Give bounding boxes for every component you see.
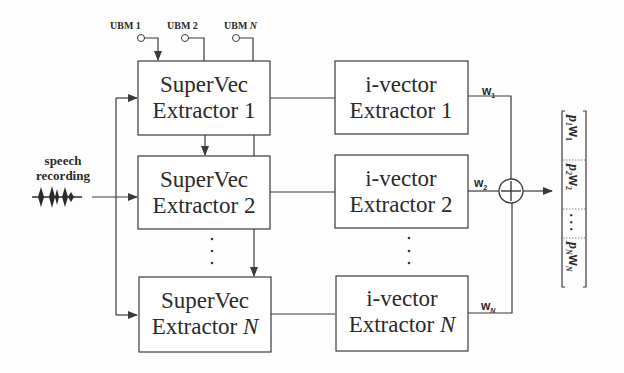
svg-text:w2: w2 <box>473 176 487 191</box>
ubm-2-port-icon <box>182 35 189 42</box>
svg-text:SuperVec: SuperVec <box>160 72 248 97</box>
ubm-1-input: UBM 1 <box>110 20 158 60</box>
supervec-extractor-1: SuperVec Extractor 1 <box>138 61 270 135</box>
supervec-extractor-2: SuperVec Extractor 2 <box>138 156 270 229</box>
svg-text:wN: wN <box>480 299 496 314</box>
vector-entry-1: p1w1 <box>564 114 582 141</box>
vector-entry-ellipsis: . . . <box>567 214 582 232</box>
ubm-2-input: UBM 2 <box>167 20 204 61</box>
svg-text:pNwN: pNwN <box>564 241 582 273</box>
sum-node-icon <box>499 179 523 203</box>
ivector-extractor-1: i-vector Extractor 1 <box>335 61 468 134</box>
svg-text:w1: w1 <box>481 84 495 99</box>
ivector-extractor-2: i-vector Extractor 2 <box>335 155 468 228</box>
ivector-ellipsis <box>408 237 411 265</box>
svg-text:i-vector: i-vector <box>365 72 437 97</box>
svg-text:p1w1: p1w1 <box>564 114 582 141</box>
svg-text:Extractor 1: Extractor 1 <box>153 98 256 123</box>
speech-label-line2: recording <box>36 168 90 183</box>
vector-entry-2: p2w2 <box>564 163 582 190</box>
output-w2: w2 <box>468 176 499 191</box>
ivector-fusion-diagram: UBM 1 UBM 2 UBM N speech recording Super… <box>0 0 624 373</box>
ubm-n-label: UBM N <box>224 20 258 31</box>
ubm-n-port-icon <box>233 35 240 42</box>
waveform-icon <box>32 186 82 208</box>
ubm-1-port-icon <box>138 35 145 42</box>
svg-text:Extractor 2: Extractor 2 <box>350 192 453 217</box>
svg-text:Extractor 1: Extractor 1 <box>350 98 453 123</box>
ubm-2-label: UBM 2 <box>167 20 198 31</box>
supervec-extractor-n: SuperVec Extractor N <box>139 277 271 352</box>
svg-text:i-vector: i-vector <box>365 166 437 191</box>
svg-text:SuperVec: SuperVec <box>160 167 248 192</box>
svg-text:Extractor N: Extractor N <box>152 314 260 339</box>
speech-label-line1: speech <box>45 153 83 168</box>
svg-text:Extractor 2: Extractor 2 <box>153 193 256 218</box>
ubm-n-input: UBM N <box>224 20 258 61</box>
svg-text:SuperVec: SuperVec <box>161 288 249 313</box>
svg-text:p2w2: p2w2 <box>564 163 582 190</box>
output-w1: w1 <box>468 84 511 180</box>
ubm-1-label: UBM 1 <box>110 20 141 31</box>
vector-entry-n: pNwN <box>564 241 582 273</box>
ivector-extractor-n: i-vector Extractor N <box>336 276 468 351</box>
svg-text:Extractor N: Extractor N <box>349 312 457 337</box>
output-wn: wN <box>468 203 512 314</box>
supervec-ellipsis <box>211 238 214 265</box>
result-vector: p1w1 p2w2 . . . pNwN <box>562 111 586 287</box>
svg-text:i-vector: i-vector <box>366 286 438 311</box>
svg-text:. . .: . . . <box>567 214 582 232</box>
speech-recording-input: speech recording <box>32 153 137 208</box>
